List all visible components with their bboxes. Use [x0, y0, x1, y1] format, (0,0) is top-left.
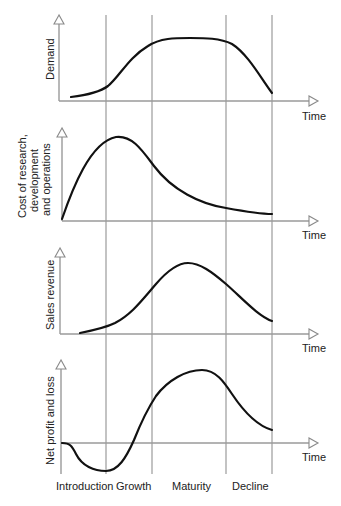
y-axis-label-profit: Net profit and loss	[44, 376, 56, 465]
y-axis-label-cost: Cost of research, development and operat…	[16, 134, 52, 218]
profit-curve	[62, 370, 272, 471]
y-axis-arrow-icon	[54, 15, 64, 24]
panel-cost: Time Cost of research, development and o…	[16, 128, 326, 241]
y-axis-label-demand: Demand	[44, 38, 56, 80]
svg-text:Cost of research,: Cost of research,	[16, 134, 28, 218]
x-axis-arrow-icon	[309, 329, 318, 339]
phase-lines	[106, 15, 272, 474]
phase-labels: Introduction Growth Maturity Decline	[56, 480, 269, 492]
product-life-cycle-diagram: Time Demand Time Cost of research, devel…	[0, 0, 341, 506]
phase-label-maturity: Maturity	[172, 480, 212, 492]
x-axis-label: Time	[302, 229, 326, 241]
panel-sales: Time Sales revenue	[44, 248, 326, 354]
panel-profit: Time Net profit and loss	[44, 360, 326, 474]
y-axis-arrow-icon	[55, 248, 65, 257]
phase-label-decline: Decline	[232, 480, 269, 492]
svg-text:development: development	[28, 149, 40, 212]
phase-label-growth: Growth	[116, 480, 151, 492]
y-axis-arrow-icon	[56, 360, 66, 369]
svg-text:and operations: and operations	[40, 143, 52, 216]
y-axis-label-sales: Sales revenue	[44, 260, 56, 330]
x-axis-arrow-icon	[309, 216, 318, 226]
x-axis-label: Time	[302, 342, 326, 354]
y-axis-arrow-icon	[57, 128, 67, 137]
demand-curve	[71, 38, 272, 97]
phase-label-introduction: Introduction	[56, 480, 113, 492]
x-axis-arrow-icon	[309, 96, 318, 106]
x-axis-label: Time	[302, 110, 326, 122]
panel-demand: Time Demand	[44, 15, 326, 122]
cost-curve	[62, 137, 272, 219]
sales-curve	[80, 263, 272, 333]
x-axis-arrow-icon	[309, 438, 318, 448]
x-axis-label: Time	[302, 451, 326, 463]
